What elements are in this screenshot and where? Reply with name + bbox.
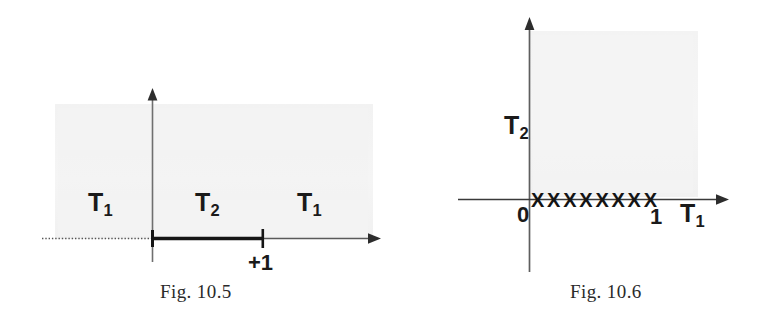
figure-caption-10-6: Fig. 10.6 (570, 281, 642, 303)
x-mark: X (611, 190, 624, 210)
origin-label-zero: 0 (517, 204, 529, 226)
x-marks-row: X X X X X X X X (531, 190, 657, 210)
x-mark: X (628, 190, 641, 210)
tick-label-plus-one: +1 (248, 252, 273, 274)
y-axis-arrowhead-106 (525, 17, 535, 30)
x-mark: X (531, 190, 544, 210)
x-mark: X (563, 190, 576, 210)
x-mark: X (595, 190, 608, 210)
x-tick-label-one: 1 (650, 206, 662, 228)
figure-10-5-graphic (0, 0, 400, 328)
region-label-middle-T2: T2 (195, 190, 219, 215)
x-axis-arrowhead-106 (716, 194, 729, 204)
y-axis-arrowhead-105 (148, 88, 158, 101)
x-mark: X (547, 190, 560, 210)
figure-10-6: X X X X X X X X T2 0 1 T1 Fig. 10.6 (400, 0, 764, 328)
figure-10-6-graphic (400, 0, 764, 328)
shaded-background-106-soft (533, 35, 693, 193)
region-label-right-T1: T1 (297, 190, 321, 215)
region-label-left-T1: T1 (88, 190, 112, 215)
x-axis-arrowhead-105 (368, 233, 381, 243)
figure-caption-10-5: Fig. 10.5 (160, 281, 232, 303)
x-mark: X (579, 190, 592, 210)
figure-page: T1 T2 T1 +1 Fig. 10.5 (0, 0, 764, 328)
y-axis-label-T2: T2 (504, 113, 528, 138)
figure-10-5: T1 T2 T1 +1 Fig. 10.5 (0, 0, 400, 328)
x-axis-label-T1: T1 (680, 201, 704, 226)
